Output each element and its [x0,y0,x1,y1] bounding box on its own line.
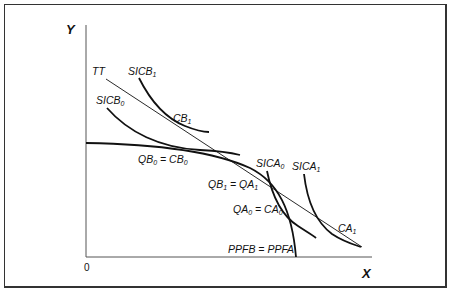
sicb1-label: SICB1 [128,65,157,78]
sica0-label: SICA0 [256,157,285,170]
ca1-label: CA1 [338,222,357,235]
qa0-ca0-label: QA0 = CA0 [233,203,283,216]
tt-label: TT [92,65,106,77]
sicb0-label: SICB0 [96,94,125,107]
qb0-cb0-label: QB0 = CB0 [138,153,188,166]
x-axis-label: X [361,266,372,281]
ppf-label: PPFB = PPFA [228,243,294,255]
y-axis-label: Y [66,22,76,37]
qb1-qa1-label: QB1 = QA1 [208,178,258,191]
origin-label: 0 [84,262,90,273]
sica1-label: SICA1 [292,160,321,173]
trade-diagram: Y X 0 TT PPFB = PPFA SICB0 SICB1 CB1 QB0… [0,0,450,294]
cb1-label: CB1 [173,112,192,125]
